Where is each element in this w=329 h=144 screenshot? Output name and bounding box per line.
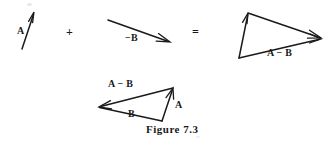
label-vector-a: A <box>17 26 24 36</box>
label-verification-a: A <box>175 100 182 110</box>
plus-sign: + <box>66 26 73 38</box>
figure-caption: Figure 7.3 <box>146 124 198 135</box>
label-vector-minus-b: −B <box>125 33 138 43</box>
result-side-minus-b <box>248 13 318 37</box>
equals-sign: = <box>192 26 199 38</box>
verification-triangle-group <box>99 88 174 121</box>
figure-7-3: A + −B = A − B A − B A B Figure 7.3 <box>0 0 329 144</box>
scan-speck <box>27 3 32 6</box>
label-verification-b: B <box>128 109 135 119</box>
vector-minus-b-arrow <box>108 20 170 42</box>
verification-side-a-minus-b <box>102 88 174 106</box>
label-result-a-minus-b: A − B <box>267 48 292 58</box>
result-side-a-arrowhead <box>243 13 248 24</box>
label-verification-a-minus-b: A − B <box>108 79 133 89</box>
scan-speck <box>196 136 200 138</box>
